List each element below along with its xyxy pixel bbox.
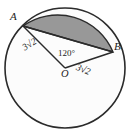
circle-diagram-canvas	[0, 0, 130, 134]
point-label-a: A	[10, 11, 17, 22]
central-angle-label: 120°	[58, 49, 75, 58]
point-label-b: B	[114, 41, 121, 52]
center-label-o: O	[61, 69, 69, 80]
geometry-figure: A B O 3√2 3√2 120°	[0, 0, 130, 134]
